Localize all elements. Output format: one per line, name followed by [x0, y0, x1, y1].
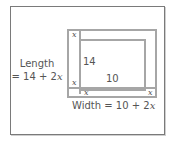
- inner-width-label: 10: [106, 73, 119, 84]
- length-label: Length = 14 + 2x: [8, 57, 66, 83]
- length-label-expression: = 14 + 2x: [8, 70, 66, 83]
- bottom-strip-divider: [69, 87, 155, 89]
- inner-length-label: 14: [83, 56, 96, 67]
- x-marker-bottom-left: x: [84, 88, 89, 97]
- x-marker-bottom-right: x: [148, 88, 153, 97]
- x-marker-left-bottom: x: [72, 78, 77, 87]
- length-label-title: Length: [8, 57, 66, 70]
- width-label: Width = 10 + 2x: [72, 100, 155, 112]
- x-marker-top-left: x: [72, 30, 77, 39]
- left-strip-divider: [79, 31, 81, 94]
